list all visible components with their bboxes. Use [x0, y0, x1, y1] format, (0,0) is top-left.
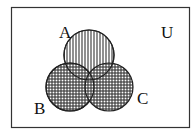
set-c-label: C: [137, 89, 148, 108]
set-b-label: B: [34, 99, 45, 118]
set-a-label: A: [59, 23, 72, 42]
universe-label: U: [161, 23, 173, 42]
venn-diagram: A B C U: [0, 0, 196, 136]
